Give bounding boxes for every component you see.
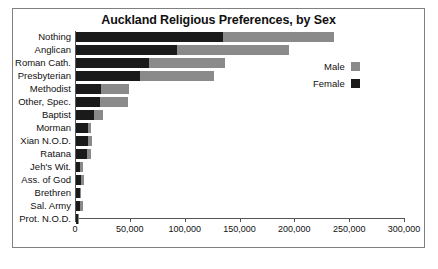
chart-legend: MaleFemale [313,61,360,95]
bar-segment-male [88,123,91,133]
bar-segment-female [76,45,177,55]
bar-segment-male [80,188,81,198]
category-label: Sal. Army [30,200,71,212]
stacked-bar [76,32,334,42]
bar-segment-male [100,97,127,107]
category-label: Jeh's Wit. [30,161,71,173]
stacked-bar [76,162,83,172]
category-label: Presbyterian [18,70,71,82]
x-axis-ticks: 050,000100,000150,000200,000250,000300,0… [75,218,405,248]
legend-label: Female [313,78,345,89]
chart-title: Auckland Religious Preferences, by Sex [13,13,424,27]
bar-segment-male [177,45,289,55]
plot-area: NothingAnglicanRoman Cath.PresbyterianMe… [75,31,404,218]
category-label: Anglican [35,44,71,56]
tick-mark [185,218,186,222]
stacked-bar [76,149,91,159]
stacked-bar [76,71,214,81]
bar-segment-male [94,110,104,120]
category-label: Other, Spec. [18,96,71,108]
bar-segment-female [76,32,223,42]
tick-mark [404,218,405,222]
legend-item: Male [313,61,360,72]
bar-segment-male [101,84,128,94]
category-label: Brethren [35,187,71,199]
tick-label: 200,000 [278,224,311,234]
category-label: Roman Cath. [15,57,71,69]
category-label: Ass. of God [21,174,71,186]
stacked-bar [76,123,91,133]
bar-segment-male [87,149,91,159]
bar-segment-female [76,110,94,120]
bar-row: Brethren [75,187,404,200]
bar-row: Other, Spec. [75,96,404,109]
stacked-bar [76,136,92,146]
bar-segment-male [80,201,82,211]
tick-mark [349,218,350,222]
bar-row: Anglican [75,44,404,57]
category-label: Methodist [30,83,71,95]
category-label: Morman [36,122,71,134]
bar-row: Nothing [75,31,404,44]
bar-segment-male [140,71,215,81]
legend-swatch [351,79,360,88]
stacked-bar [76,84,129,94]
bar-segment-female [76,97,100,107]
stacked-bar [76,58,225,68]
legend-swatch [351,62,360,71]
stacked-bar [76,201,83,211]
bar-row: Sal. Army [75,200,404,213]
bar-row: Morman [75,122,404,135]
tick-label: 100,000 [168,224,201,234]
chart-frame: Auckland Religious Preferences, by Sex N… [12,8,425,248]
bar-row: Baptist [75,109,404,122]
category-label: Xian N.O.D. [20,135,71,147]
bar-row: Ratana [75,148,404,161]
tick-mark [240,218,241,222]
category-label: Nothing [38,31,71,43]
legend-item: Female [313,78,360,89]
category-label: Prot. N.O.D. [19,213,71,225]
bar-segment-female [76,84,101,94]
tick-label: 50,000 [116,224,144,234]
tick-label: 0 [72,224,77,234]
tick-mark [294,218,295,222]
stacked-bar [76,110,103,120]
bar-segment-female [76,123,88,133]
stacked-bar [76,45,289,55]
bar-segment-male [223,32,334,42]
bar-segment-male [149,58,225,68]
bar-segment-female [76,136,88,146]
bar-row: Jeh's Wit. [75,161,404,174]
tick-mark [75,218,76,222]
tick-label: 250,000 [333,224,366,234]
bar-segment-female [76,58,149,68]
bar-row: Ass. of God [75,174,404,187]
stacked-bar [76,188,81,198]
bar-segment-male [80,162,82,172]
bar-segment-female [76,149,87,159]
category-label: Ratana [40,148,71,160]
bar-row: Xian N.O.D. [75,135,404,148]
tick-label: 300,000 [388,224,421,234]
tick-label: 150,000 [223,224,256,234]
legend-label: Male [324,61,345,72]
stacked-bar [76,97,128,107]
stacked-bar [76,175,84,185]
bar-segment-male [88,136,92,146]
tick-mark [130,218,131,222]
bar-segment-female [76,71,140,81]
bar-segment-male [81,175,83,185]
category-label: Baptist [42,109,71,121]
